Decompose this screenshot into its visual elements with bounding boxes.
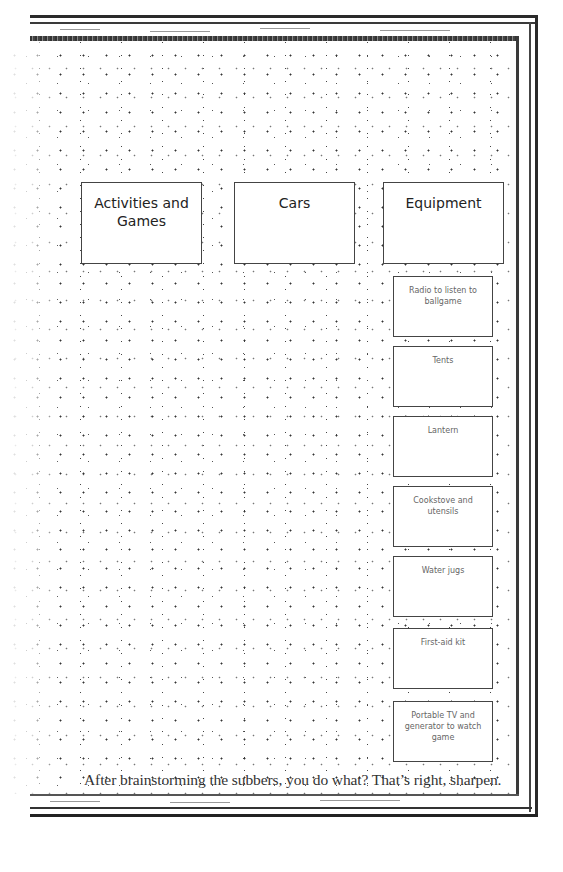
category-label: Cars [235, 194, 354, 212]
frame-bottom-mid-line [30, 807, 532, 809]
frame-top-mid-line [30, 22, 535, 24]
frame-right-inner-edge [516, 36, 519, 794]
wood-grain [320, 800, 400, 801]
category-box-equipment: Equipment [383, 182, 504, 264]
frame-right-outer-line [535, 15, 538, 817]
category-box-cars: Cars [234, 182, 355, 264]
wood-grain [60, 29, 100, 30]
equipment-item-label: Lantern [394, 425, 492, 436]
equipment-item-label: Radio to listen to ballgame [394, 285, 492, 307]
equipment-item-box: Cookstove and utensils [393, 486, 493, 547]
frame-top-inner-edge [30, 36, 518, 41]
board-left-fade [0, 41, 60, 794]
equipment-item-box: First-aid kit [393, 628, 493, 689]
category-label: Equipment [384, 194, 503, 212]
wood-grain [380, 30, 450, 31]
equipment-item-box: Lantern [393, 416, 493, 477]
wood-grain [170, 802, 230, 803]
equipment-item-label: Tents [394, 355, 492, 366]
category-box-activities: Activities and Games [81, 182, 202, 264]
equipment-item-box: Tents [393, 346, 493, 407]
equipment-item-label: Cookstove and utensils [394, 495, 492, 517]
wood-grain [260, 28, 310, 29]
caption: After brainstorming the subbers, you do … [84, 771, 514, 789]
equipment-item-label: Portable TV and generator to watch game [394, 710, 492, 743]
frame-right-mid-line [529, 22, 531, 812]
equipment-item-box: Water jugs [393, 556, 493, 617]
equipment-item-box: Portable TV and generator to watch game [393, 701, 493, 762]
equipment-item-label: First-aid kit [394, 637, 492, 648]
wood-grain [150, 31, 210, 32]
frame-bottom-inner-edge [30, 794, 519, 796]
equipment-item-box: Radio to listen to ballgame [393, 276, 493, 337]
wood-grain [50, 801, 100, 802]
frame-bottom-outer-line [30, 814, 538, 817]
frame-top-outer-line [30, 15, 538, 18]
category-label: Activities and Games [82, 194, 201, 230]
equipment-item-label: Water jugs [394, 565, 492, 576]
